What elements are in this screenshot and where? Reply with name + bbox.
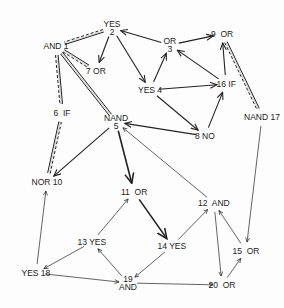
node-11: 11 OR: [121, 188, 147, 197]
node-19: 19 AND: [119, 275, 137, 292]
edge-15-to-12: [219, 210, 241, 243]
edge-14-to-19: [135, 252, 165, 277]
edge-8-to-5: [125, 123, 196, 134]
node-17: NAND 17: [244, 113, 280, 122]
edge-20-to-15: [227, 258, 241, 277]
node-5: NAND 5: [104, 114, 128, 131]
edge-3-to-2: [121, 31, 162, 43]
edge-2-to-1: [64, 30, 104, 45]
edge-9-to-17: [225, 42, 260, 110]
edge-18-to-10: [37, 191, 46, 264]
edge-13-to-11: [98, 199, 128, 235]
node-15: 15 OR: [233, 247, 260, 256]
edge-5-to-10: [54, 128, 109, 176]
node-12: 12 AND: [198, 199, 230, 208]
node-7: 7 OR: [86, 67, 106, 76]
edge-19-to-20: [137, 283, 213, 285]
edge-17-to-15: [247, 126, 261, 242]
edge-14-to-12: [178, 209, 207, 239]
edge-10-to-6: [48, 122, 62, 174]
node-8: 8 NO: [195, 132, 215, 141]
node-1: AND 1: [44, 42, 69, 51]
node-6: 6 IF: [54, 109, 71, 118]
node-9: 9 OR: [211, 30, 233, 39]
node-18: YES 18: [22, 269, 51, 278]
edge-1-to-6: [56, 55, 63, 104]
edge-4-to-3: [154, 53, 167, 82]
edge-4-to-16: [159, 85, 217, 90]
edge-2-to-4: [117, 36, 146, 83]
edge-13-to-18: [44, 246, 84, 268]
logic-network-diagram: AND 1YES 2OR 3YES 4NAND 56 IF7 OR8 NO9 O…: [0, 0, 284, 308]
node-3: OR 3: [164, 37, 177, 54]
edge-12-to-20: [215, 212, 221, 276]
edge-1-to-7: [63, 50, 89, 68]
edge-18-to-19: [45, 274, 119, 282]
edge-3-to-9: [179, 36, 213, 43]
edge-16-to-3: [177, 50, 218, 79]
node-4: YES 4: [138, 86, 162, 95]
edge-4-to-8: [157, 96, 198, 130]
edge-2-to-7: [99, 36, 109, 62]
edge-5-to-11: [118, 131, 132, 184]
node-2: YES 2: [104, 20, 121, 37]
node-10: NOR 10: [32, 178, 63, 187]
edge-5-to-1: [61, 52, 112, 115]
node-13: 13 YES: [78, 238, 107, 247]
node-14: 14 YES: [158, 242, 187, 251]
edge-16-to-9: [223, 43, 226, 75]
edge-19-to-13: [98, 249, 122, 276]
node-20: 20 OR: [209, 281, 236, 290]
node-16: 16 IF: [217, 80, 236, 89]
edge-11-to-14: [139, 199, 167, 238]
edge-8-to-16: [208, 92, 222, 127]
